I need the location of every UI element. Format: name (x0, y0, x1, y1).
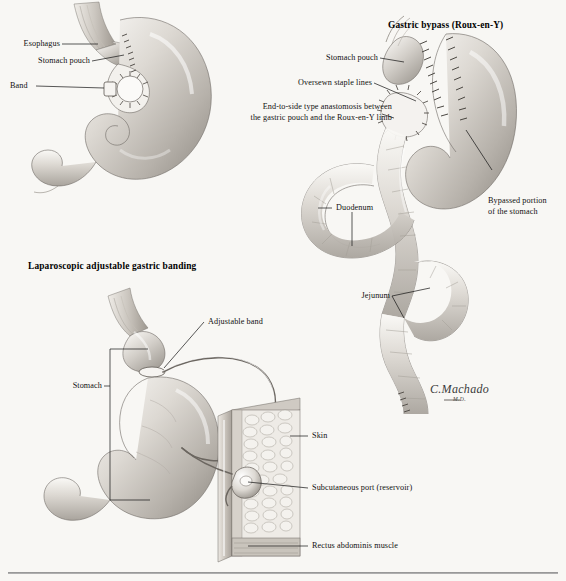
label-duodenum: Duodenum (336, 203, 373, 214)
label-rectus-abdominis: Rectus abdominis muscle (312, 541, 398, 552)
top-left-banded-stomach-figure (32, 2, 212, 193)
illustration-plate: Esophagus Stomach pouch Band Gastric byp… (0, 0, 566, 581)
label-anastomosis-line1: End-to-side type anastomosis between (210, 102, 392, 113)
label-oversewn-staple-lines: Oversewn staple lines (250, 78, 372, 89)
label-jejunum: Jejunum (320, 291, 390, 302)
label-bypassed-portion-line1: Bypassed portion (488, 196, 547, 207)
bottom-rule (8, 572, 558, 574)
label-anastomosis-line2: the gastric pouch and the Roux-en-Y limb (210, 113, 392, 124)
title-lap-band: Laparoscopic adjustable gastric banding (28, 261, 196, 271)
label-skin: Skin (312, 431, 327, 442)
label-adjustable-band: Adjustable band (208, 317, 263, 328)
label-stomach-pouch-bypass: Stomach pouch (280, 53, 378, 64)
gastric-bypass-figure (302, 16, 517, 414)
label-subcutaneous-port: Subcutaneous port (reservoir) (312, 483, 412, 494)
title-gastric-bypass: Gastric bypass (Roux-en-Y) (388, 20, 503, 30)
label-esophagus: Esophagus (0, 39, 60, 50)
label-stomach: Stomach (40, 381, 102, 392)
signature-name: C.Machado (430, 382, 489, 396)
artist-signature: C.Machado M.D. (430, 379, 489, 402)
label-bypassed-portion-line2: of the stomach (488, 207, 538, 218)
label-stomach-pouch-banded: Stomach pouch (0, 56, 90, 67)
label-band: Band (10, 81, 28, 92)
signature-credential: M.D. (430, 396, 489, 402)
